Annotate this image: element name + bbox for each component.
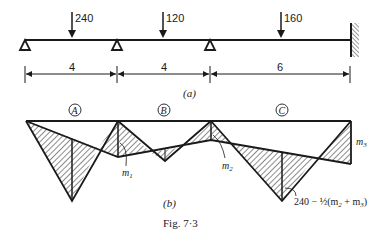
span-length: 6 (277, 61, 283, 73)
load-120: 120 (159, 12, 184, 38)
load-value: 160 (284, 12, 302, 24)
beam-figure: 240 120 160 4 4 6 (a) (0, 0, 382, 230)
moment-diagram: A B C (26, 104, 367, 210)
m1-label: m1 (122, 167, 133, 180)
hatched-regions (26, 121, 351, 201)
svg-text:B: B (161, 105, 167, 116)
load-value: 120 (166, 12, 184, 24)
svg-text:C: C (279, 105, 286, 116)
beam-diagram: 240 120 160 4 4 6 (a) (20, 12, 359, 100)
peak-c-label: 240 − ½(m2 + m3) (294, 196, 367, 209)
pin-support-icon (20, 40, 30, 50)
roller-support-icon (112, 40, 122, 50)
load-value: 240 (75, 12, 93, 24)
roller-support-icon (205, 40, 215, 50)
load-240: 240 (68, 12, 93, 38)
fixed-wall-icon (351, 23, 359, 57)
part-a-label: (a) (183, 87, 196, 100)
svg-text:A: A (71, 105, 79, 116)
figure-caption: Fig. 7·3 (163, 217, 198, 229)
span-label-c: C (276, 104, 288, 116)
part-b-label: (b) (163, 197, 176, 210)
span-label-b: B (158, 104, 170, 116)
m3-label: m3 (356, 136, 367, 149)
span-length: 4 (161, 61, 167, 73)
span-length: 4 (69, 61, 75, 73)
m2-label: m2 (222, 160, 233, 173)
load-160: 160 (277, 12, 302, 38)
span-label-a: A (69, 104, 81, 116)
